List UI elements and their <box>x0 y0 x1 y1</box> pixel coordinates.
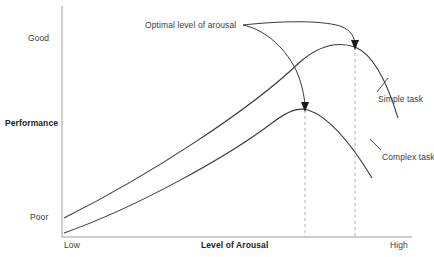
x-axis-tick-high: High <box>390 240 408 250</box>
x-axis-title: Level of Arousal <box>201 240 268 250</box>
y-axis-tick-poor: Poor <box>30 212 48 222</box>
x-axis-tick-low: Low <box>64 240 80 250</box>
leader-complex-task-label <box>370 139 381 150</box>
curve-complex-task <box>64 109 372 233</box>
y-axis-title: Performance <box>5 118 58 128</box>
chart-canvas <box>0 0 434 257</box>
annotation-optimal-level: Optimal level of arousal <box>145 20 236 30</box>
annotation-leader-to-complex-peak <box>243 25 305 104</box>
arousal-performance-diagram: Good Poor Performance Low High Level of … <box>0 0 434 257</box>
curve-simple-task <box>64 44 398 218</box>
annotation-leader-to-simple-peak <box>243 22 355 43</box>
y-axis-tick-good: Good <box>28 33 49 43</box>
series-label-simple-task: Simple task <box>378 94 423 104</box>
series-label-complex-task: Complex task <box>382 152 434 162</box>
